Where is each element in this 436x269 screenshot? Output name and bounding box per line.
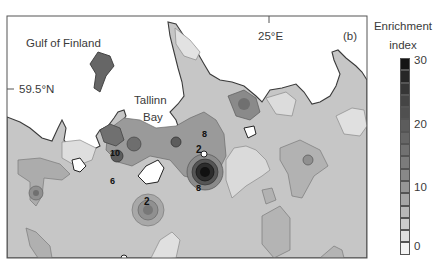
colorbar-level	[400, 230, 410, 242]
enrichment-spot	[29, 186, 43, 200]
colorbar-level	[400, 95, 410, 107]
colorbar	[400, 58, 410, 255]
contour-label: 6	[110, 176, 115, 186]
colorbar-level	[400, 242, 410, 254]
colorbar-tick-20: 20	[414, 118, 427, 130]
contour-label: 2	[144, 196, 150, 207]
contour-peak	[238, 98, 250, 110]
contour-label: 8	[196, 183, 201, 193]
colorbar-level	[400, 218, 410, 230]
colorbar-level	[400, 107, 410, 119]
longitude-label: 25°E	[258, 30, 283, 42]
contour-label: 2	[196, 144, 202, 155]
enrichment-hotspot	[187, 154, 223, 190]
colorbar-title-line1: Enrichment	[370, 17, 436, 36]
colorbar-level	[400, 58, 410, 70]
colorbar-tick-10: 10	[414, 181, 427, 193]
colorbar-level	[400, 83, 410, 95]
colorbar-tick-0: 0	[414, 240, 420, 252]
colorbar-level	[400, 156, 410, 168]
colorbar-level	[400, 70, 410, 82]
sea-label-gulf-of-finland: Gulf of Finland	[26, 37, 101, 49]
panel-label: (b)	[343, 30, 357, 42]
colorbar-level	[400, 193, 410, 205]
bay-label-tallinn: Tallinn	[134, 94, 167, 106]
colorbar-level	[400, 119, 410, 131]
colorbar-title-line2: index	[370, 36, 436, 55]
colorbar-tick-30: 30	[414, 54, 427, 66]
colorbar-level	[400, 169, 410, 181]
contour-label: 8	[202, 129, 207, 139]
colorbar-level	[400, 132, 410, 144]
colorbar-title: Enrichment index	[370, 17, 436, 55]
latitude-label: 59.5°N	[19, 83, 54, 95]
bay-label-bay: Bay	[143, 111, 163, 123]
colorbar-level	[400, 181, 410, 193]
colorbar-level	[400, 206, 410, 218]
contour-label: 10	[110, 148, 120, 158]
colorbar-level	[400, 144, 410, 156]
